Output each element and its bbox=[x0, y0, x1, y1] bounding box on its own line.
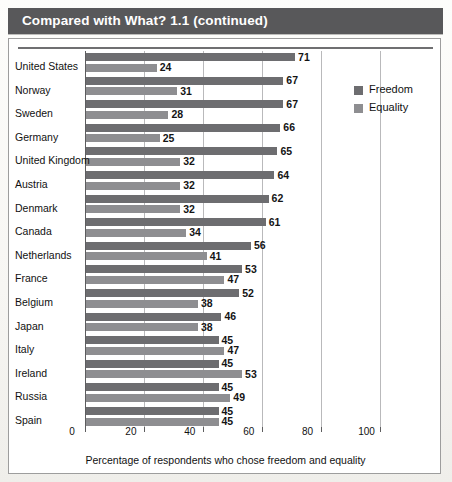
bar-value-label: 61 bbox=[269, 218, 281, 227]
figure-page: Compared with What? 1.1 (continued) 7124… bbox=[0, 0, 452, 482]
bar-value-label: 38 bbox=[201, 323, 213, 332]
bar-value-label: 31 bbox=[180, 87, 192, 96]
bar-value-label: 41 bbox=[210, 252, 222, 261]
bar-value-label: 45 bbox=[222, 383, 234, 392]
bar-value-label: 32 bbox=[183, 181, 195, 190]
category-label: Italy bbox=[15, 343, 83, 355]
bar-value-label: 71 bbox=[298, 53, 310, 62]
bar-value-label: 45 bbox=[222, 359, 234, 368]
bar-equality bbox=[86, 347, 224, 355]
bar-value-label: 28 bbox=[171, 110, 183, 119]
x-axis-caption: Percentage of respondents who chose free… bbox=[9, 454, 442, 466]
bar-equality bbox=[86, 370, 242, 378]
bar-value-label: 49 bbox=[233, 393, 245, 402]
tick-mark bbox=[85, 427, 86, 432]
bar-freedom bbox=[86, 407, 219, 415]
bar-value-label: 56 bbox=[254, 241, 266, 250]
bar-freedom bbox=[86, 336, 219, 344]
bar-value-label: 25 bbox=[163, 134, 175, 143]
category-label: Ireland bbox=[15, 367, 83, 379]
bar-freedom bbox=[86, 265, 242, 273]
category-label: Germany bbox=[15, 131, 83, 143]
bar-equality bbox=[86, 134, 160, 142]
bar-equality bbox=[86, 158, 180, 166]
bar-value-label: 32 bbox=[183, 205, 195, 214]
bar-freedom bbox=[86, 53, 295, 61]
bar-freedom bbox=[86, 77, 283, 85]
chart-figure: 7124673167286625653264326232613456415347… bbox=[8, 38, 441, 474]
bar-value-label: 38 bbox=[201, 299, 213, 308]
bar-value-label: 52 bbox=[242, 289, 254, 298]
legend-label: Equality bbox=[369, 101, 408, 113]
bar-freedom bbox=[86, 289, 239, 297]
tick-mark bbox=[262, 427, 263, 432]
category-label: Spain bbox=[15, 414, 83, 426]
bar-value-label: 47 bbox=[227, 275, 239, 284]
bar-value-label: 65 bbox=[280, 147, 292, 156]
category-label: Japan bbox=[15, 320, 83, 332]
bar-freedom bbox=[86, 147, 277, 155]
bar-value-label: 64 bbox=[277, 171, 289, 180]
tick-label: 100 bbox=[354, 426, 380, 437]
category-label: Sweden bbox=[15, 107, 83, 119]
tick-label: 20 bbox=[118, 426, 144, 437]
bar-equality bbox=[86, 182, 180, 190]
legend-swatch-icon bbox=[354, 104, 363, 113]
bar-chart-plot: 7124673167286625653264326232613456415347… bbox=[9, 39, 442, 475]
category-label: Canada bbox=[15, 225, 83, 237]
tick-mark bbox=[144, 427, 145, 432]
bar-equality bbox=[86, 300, 198, 308]
legend-label: Freedom bbox=[369, 83, 413, 95]
bar-value-label: 66 bbox=[283, 123, 295, 132]
bar-value-label: 24 bbox=[160, 63, 172, 72]
tick-mark bbox=[321, 427, 322, 432]
bar-freedom bbox=[86, 100, 283, 108]
bar-freedom bbox=[86, 195, 269, 203]
bar-freedom bbox=[86, 242, 251, 250]
category-label: Russia bbox=[15, 390, 83, 402]
tick-label: 40 bbox=[177, 426, 203, 437]
bar-freedom bbox=[86, 313, 221, 321]
bar-freedom bbox=[86, 124, 280, 132]
bar-equality bbox=[86, 229, 186, 237]
bar-equality bbox=[86, 87, 177, 95]
bar-value-label: 46 bbox=[224, 312, 236, 321]
page-title: Compared with What? 1.1 (continued) bbox=[22, 13, 268, 28]
bar-equality bbox=[86, 394, 230, 402]
tick-label: 60 bbox=[236, 426, 262, 437]
bar-value-label: 53 bbox=[245, 265, 257, 274]
bar-equality bbox=[86, 64, 157, 72]
title-banner: Compared with What? 1.1 (continued) bbox=[8, 8, 443, 34]
bar-value-label: 67 bbox=[286, 100, 298, 109]
category-label: United Kingdom bbox=[15, 154, 83, 166]
bar-equality bbox=[86, 111, 168, 119]
bar-equality bbox=[86, 418, 219, 426]
tick-label: 80 bbox=[295, 426, 321, 437]
tick-label: 0 bbox=[59, 426, 85, 437]
category-label: Denmark bbox=[15, 202, 83, 214]
bar-value-label: 47 bbox=[227, 346, 239, 355]
tick-mark bbox=[380, 427, 381, 432]
gridline bbox=[321, 51, 322, 431]
category-label: United States bbox=[15, 60, 83, 72]
bar-value-label: 45 bbox=[222, 417, 234, 426]
bar-value-label: 62 bbox=[272, 194, 284, 203]
bar-value-label: 34 bbox=[189, 228, 201, 237]
bar-freedom bbox=[86, 218, 266, 226]
bar-value-label: 53 bbox=[245, 370, 257, 379]
category-label: Norway bbox=[15, 84, 83, 96]
bar-equality bbox=[86, 205, 180, 213]
category-label: France bbox=[15, 272, 83, 284]
bar-equality bbox=[86, 323, 198, 331]
bar-freedom bbox=[86, 383, 219, 391]
legend-swatch-icon bbox=[354, 86, 363, 95]
bar-freedom bbox=[86, 171, 274, 179]
category-label: Belgium bbox=[15, 296, 83, 308]
bar-equality bbox=[86, 252, 207, 260]
bar-value-label: 32 bbox=[183, 157, 195, 166]
bar-value-label: 67 bbox=[286, 76, 298, 85]
category-label: Netherlands bbox=[15, 249, 83, 261]
bar-freedom bbox=[86, 360, 219, 368]
bar-equality bbox=[86, 276, 224, 284]
tick-mark bbox=[203, 427, 204, 432]
